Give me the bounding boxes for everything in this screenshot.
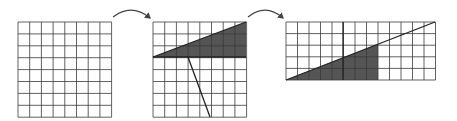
rectangle-grid: [286, 22, 436, 80]
dissection-diagram: [0, 0, 457, 121]
cut-square-grid: [153, 22, 247, 117]
cut-line: [188, 57, 210, 117]
transformation-arrows: [113, 10, 283, 18]
arrow-cut-to-rectangle-icon: [248, 10, 283, 18]
square-grid: [18, 22, 112, 117]
arrow-square-to-cut-icon: [113, 10, 150, 18]
